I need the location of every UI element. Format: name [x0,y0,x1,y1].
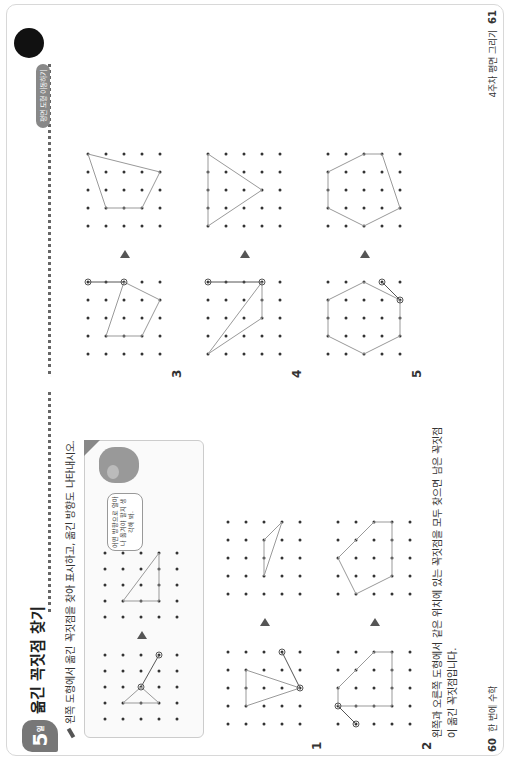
arrow-right-icon [260,618,270,626]
speech-bubble: 어떤 방향으로 얼마나 옮겨야 할지 생각해 봐. [107,493,143,551]
problem-2-before[interactable] [330,642,420,732]
instruction: 왼쪽 도형에서 옮긴 꼭짓점을 찾아 표시하고, 옮긴 방향도 나타내시오. [62,440,77,738]
problem-number: 4 [290,370,304,378]
pencil-icon [67,728,75,739]
arrow-right-icon [120,250,130,258]
mascot-icon [14,28,44,58]
footer-left: 60한 번에 수학 [486,686,499,752]
problem-4-after[interactable] [200,144,290,234]
arrow-right-icon [137,631,147,639]
problem-1-after[interactable] [220,512,310,602]
page-title: 옮긴 꼭짓점 찾기 [26,606,47,714]
dotted-divider [48,392,51,612]
problem-4-before[interactable] [200,272,290,362]
problem-number: 1 [310,742,324,750]
example-grid-after [97,545,187,625]
problem-1-before[interactable] [220,642,310,732]
problem-3-after[interactable] [80,144,170,234]
worksheet-spread: 5일 옮긴 꼭짓점 찾기 평면 도형 이동하기 왼쪽 도형에서 옮긴 꼭짓점을 … [0,0,508,762]
problem-number: 5 [410,370,424,378]
hint-text: 왼쪽과 오른쪽 도형에서 같은 위치에 있는 꼭짓점을 모두 찾으면 남은 꼭짓… [430,427,460,738]
problem-number: 3 [170,370,184,378]
example-grid-before [97,647,187,727]
problem-3-before[interactable] [80,272,170,362]
example-box: 어떤 방향으로 얼마나 옮겨야 할지 생각해 봐. [84,440,204,738]
problem-2-after[interactable] [330,512,420,602]
arrow-right-icon [360,250,370,258]
problem-5-before[interactable] [320,272,410,362]
problem-number: 2 [420,742,434,750]
topic-tag: 평면 도형 이동하기 [36,64,50,128]
day-badge: 5일 [22,720,58,752]
arrow-right-icon [240,250,250,258]
page-fold-icon [84,440,100,456]
problem-5-after[interactable] [320,144,410,234]
hippo-mascot-icon [99,447,139,483]
footer-right: 4주차 평면 그리기61 [486,10,499,97]
arrow-right-icon [370,618,380,626]
